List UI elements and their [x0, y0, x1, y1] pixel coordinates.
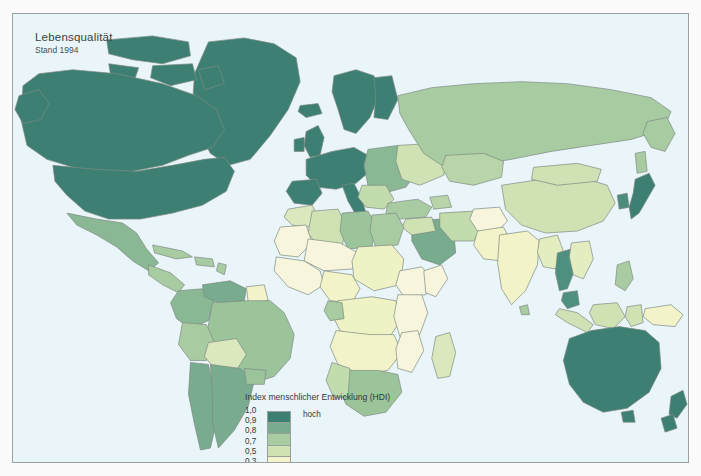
- legend-tick: 0,7: [245, 437, 267, 447]
- region-southern-cone[interactable]: [244, 368, 266, 384]
- region-sri-lanka[interactable]: [519, 305, 529, 315]
- region-mongolia[interactable]: [531, 163, 601, 185]
- legend-body: 1,0 0,9 0,8 0,7 0,5 0,3 h: [245, 406, 390, 463]
- page-subtitle: Stand 1994: [35, 45, 113, 56]
- legend-tick: 0,3: [245, 457, 267, 463]
- region-korea[interactable]: [617, 193, 629, 209]
- legend-swatch-column: [267, 411, 291, 463]
- region-tasmania[interactable]: [621, 410, 635, 422]
- map-title-block: Lebensqualität Stand 1994: [35, 30, 113, 56]
- region-caucasus[interactable]: [430, 195, 452, 209]
- legend-swatch: [268, 423, 290, 434]
- legend-swatch: [268, 457, 290, 463]
- legend-title: Index menschlicher Entwicklung (HDI): [245, 392, 390, 402]
- page-title: Lebensqualität: [35, 30, 113, 44]
- legend-tick: 0,9: [245, 416, 267, 426]
- region-ireland[interactable]: [294, 137, 304, 151]
- legend-tick: 1,0: [245, 406, 267, 416]
- region-guyana[interactable]: [246, 285, 268, 303]
- legend-tick-column: 1,0 0,9 0,8 0,7 0,5 0,3: [245, 406, 267, 463]
- legend-swatch: [268, 434, 290, 445]
- legend-swatch: [268, 446, 290, 457]
- map-frame: Lebensqualität Stand 1994 Index menschli…: [12, 13, 689, 463]
- legend-tick: 0,5: [245, 447, 267, 457]
- legend-swatch: [268, 412, 290, 423]
- region-sakhalin[interactable]: [635, 151, 647, 173]
- legend: Index menschlicher Entwicklung (HDI) 1,0…: [245, 392, 390, 463]
- region-egypt[interactable]: [370, 213, 404, 247]
- legend-tick: 0,8: [245, 426, 267, 436]
- legend-high-label: hoch: [303, 410, 321, 419]
- map-page: Lebensqualität Stand 1994 Index menschli…: [0, 0, 701, 476]
